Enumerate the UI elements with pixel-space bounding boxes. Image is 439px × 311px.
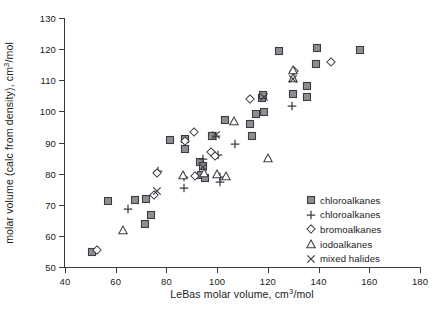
y-axis-tick [59,236,65,237]
legend-marker-plus-icon [303,209,320,221]
data-point [288,65,299,76]
data-point [287,88,298,99]
legend-marker-x-icon [303,253,320,265]
data-point [257,89,268,100]
data-point [325,56,336,67]
data-point [122,204,133,215]
data-point [198,161,209,172]
data-point [288,73,299,84]
data-point [188,126,199,137]
data-point [287,65,298,76]
data-point [92,244,103,255]
x-axis-tick [319,267,320,273]
y-axis-tick-label: 50 [45,262,56,273]
x-axis-tick-label: 40 [60,276,71,287]
y-axis-tick [59,18,65,19]
data-point [257,93,268,104]
x-axis-label-pre: LeBas molar volume, cm [170,288,289,300]
legend-item: chloroalkanes [303,193,421,208]
data-point [146,210,157,221]
y-axis-tick-label: 80 [45,168,56,179]
y-axis-tick [59,111,65,112]
y-axis-tick-label: 90 [45,137,56,148]
data-point [262,153,273,164]
y-axis-label-container: molar volume (calc from density), cm3/mo… [0,18,18,268]
x-axis-tick [420,267,421,273]
y-axis-tick-label: 130 [40,13,56,24]
data-point [178,183,189,194]
data-point [250,108,261,119]
x-axis-tick [166,267,167,273]
x-axis-tick-label: 60 [110,276,121,287]
legend-marker-diamond-icon [303,223,320,235]
legend-item: chloroalkanes [303,208,421,223]
data-point [246,130,257,141]
x-axis-tick [217,267,218,273]
data-point [229,116,240,127]
data-point [215,176,226,187]
data-point [179,144,190,155]
y-axis-label: molar volume (calc from density), cm3/mo… [3,42,15,244]
x-axis-tick [65,267,66,273]
data-point [244,93,255,104]
data-point [198,168,209,179]
y-axis-tick-label: 120 [40,44,56,55]
data-point [139,219,150,230]
data-point [230,139,241,150]
data-point [177,170,188,181]
data-point [152,166,163,177]
data-point [129,195,140,206]
data-point [178,171,189,182]
data-point [164,135,175,146]
y-axis-tick-label: 60 [45,230,56,241]
scatter-plot-figure: 5060708090100110120130406080100120140160… [0,0,439,311]
data-point [312,43,323,54]
data-point [199,172,210,183]
data-point [259,106,270,117]
data-point [198,161,209,172]
data-point [219,114,230,125]
data-point [211,131,222,142]
data-point [86,247,97,258]
data-point [214,171,225,182]
data-point [103,196,114,207]
data-point [198,153,209,164]
data-point [149,190,160,201]
y-axis-tick [59,80,65,81]
data-point [206,146,217,157]
data-point [311,59,322,70]
y-axis-tick [59,174,65,175]
x-axis-tick [369,267,370,273]
y-axis-label-exponent: 3 [2,63,11,67]
data-point [211,130,222,141]
data-point [180,135,191,146]
y-axis-tick-label: 100 [40,106,56,117]
x-axis-tick-label: 180 [412,276,428,287]
data-point [209,150,220,161]
data-point [273,46,284,57]
data-point [190,170,201,181]
data-point [355,44,366,55]
x-axis-tick-label: 100 [209,276,225,287]
y-axis-tick [59,143,65,144]
data-point [195,157,206,168]
legend-item: iodoalkanes [303,237,421,252]
x-axis-label-post: /mol [293,288,313,300]
data-point [207,130,218,141]
data-point [287,101,298,112]
data-point [152,186,163,197]
legend-marker-square-icon [303,194,320,206]
data-point [212,168,223,179]
data-point [301,80,312,91]
legend-item: bromoalkanes [303,222,421,237]
y-axis-tick [59,205,65,206]
x-axis-label: LeBas molar volume, cm3/mol [64,288,420,300]
data-point [179,134,190,145]
legend-item-label: iodoalkanes [320,239,372,250]
y-axis-tick [59,49,65,50]
data-point [196,169,207,180]
legend-item-label: chloroalkanes [320,195,381,206]
x-axis-tick-label: 120 [260,276,276,287]
legend-marker-triangle-icon [303,238,320,250]
legend-item: mixed halides [303,251,421,266]
